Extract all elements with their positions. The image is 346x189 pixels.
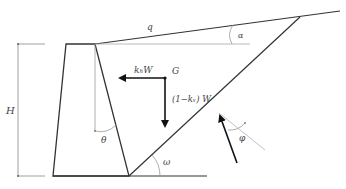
retaining-wall-diagram: q α H kₕW G (1−kᵥ) W θ ω φ <box>0 0 346 189</box>
centroid-label: G <box>172 66 179 76</box>
omega-label: ω <box>163 157 171 167</box>
omega-arc <box>152 155 160 176</box>
vertical-weight-label: (1−kᵥ) W <box>172 94 212 104</box>
horizontal-inertia-label: kₕW <box>134 65 153 75</box>
backfill-surface <box>95 11 340 44</box>
phi-label: φ <box>239 133 246 143</box>
theta-label: θ <box>101 135 107 145</box>
theta-arc <box>95 125 116 132</box>
height-label: H <box>5 105 15 116</box>
retaining-wall <box>53 44 129 176</box>
height-dimension <box>17 43 45 177</box>
reaction-arrow <box>220 116 237 163</box>
failure-plane <box>129 17 300 176</box>
alpha-label: α <box>238 31 244 40</box>
alpha-arc <box>230 25 233 44</box>
surcharge-label: q <box>147 22 153 32</box>
